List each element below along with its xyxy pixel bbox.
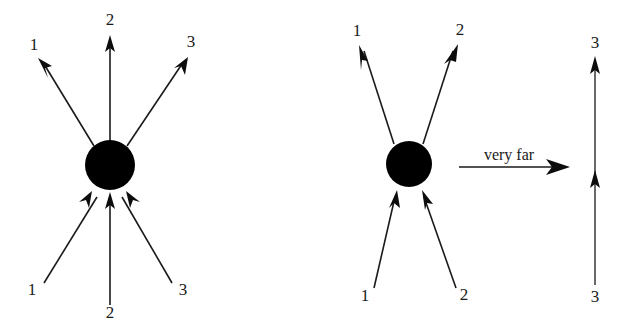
free-propagator-line-3: 3 3 xyxy=(590,33,600,306)
left-incoming-leg-1: 1 xyxy=(28,191,97,299)
left-diagram: 1 2 3 1 xyxy=(28,10,196,322)
left-incoming-label-3: 3 xyxy=(179,280,188,299)
right-incoming-leg-2: 2 xyxy=(422,190,468,304)
left-outgoing-label-2: 2 xyxy=(106,10,115,29)
very-far-annotation: very far xyxy=(459,146,570,175)
right-incoming-arrowhead-1 xyxy=(389,190,400,208)
right-incoming-leg-1: 1 xyxy=(361,190,400,305)
left-incoming-arrowhead-1 xyxy=(79,191,92,208)
free-line-top-label: 3 xyxy=(591,33,600,52)
very-far-label: very far xyxy=(484,146,535,164)
right-outgoing-arrowhead-2 xyxy=(444,44,458,64)
right-vertex-blob xyxy=(386,141,432,187)
left-incoming-line-1 xyxy=(44,197,97,283)
left-outgoing-leg-2: 2 xyxy=(105,10,115,150)
diagram-svg: 1 2 3 1 xyxy=(0,0,624,330)
right-incoming-line-2 xyxy=(424,197,456,288)
right-outgoing-label-2: 2 xyxy=(456,20,465,39)
left-vertex-blob xyxy=(85,140,135,190)
free-line-bottom-label: 3 xyxy=(591,287,600,306)
left-incoming-leg-3: 3 xyxy=(122,191,187,299)
right-diagram: 1 2 1 2 xyxy=(353,20,469,305)
left-outgoing-leg-1: 1 xyxy=(30,35,94,146)
right-outgoing-line-1 xyxy=(364,51,394,144)
figure-canvas: 1 2 3 1 xyxy=(0,0,624,330)
left-incoming-leg-2: 2 xyxy=(105,192,115,322)
right-incoming-line-1 xyxy=(374,197,395,288)
right-outgoing-leg-1: 1 xyxy=(353,21,394,144)
left-outgoing-line-3 xyxy=(127,64,182,146)
right-incoming-label-2: 2 xyxy=(460,285,469,304)
right-incoming-label-1: 1 xyxy=(361,286,370,305)
left-outgoing-label-1: 1 xyxy=(30,35,39,54)
left-outgoing-label-3: 3 xyxy=(187,32,196,51)
left-incoming-label-2: 2 xyxy=(106,303,115,322)
left-incoming-label-1: 1 xyxy=(28,280,37,299)
left-incoming-arrowhead-3 xyxy=(126,191,140,208)
right-outgoing-label-1: 1 xyxy=(353,21,362,40)
right-outgoing-line-2 xyxy=(423,51,453,144)
left-outgoing-leg-3: 3 xyxy=(127,32,195,146)
right-outgoing-leg-2: 2 xyxy=(423,20,464,144)
left-outgoing-line-1 xyxy=(44,64,94,146)
left-incoming-line-3 xyxy=(122,197,172,283)
